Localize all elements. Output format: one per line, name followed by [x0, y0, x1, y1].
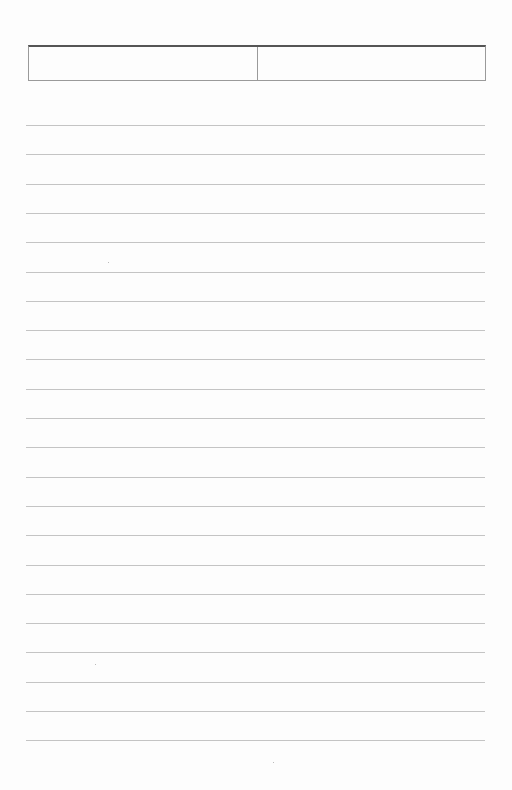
ruled-line [26, 359, 485, 360]
scan-speck [108, 262, 109, 263]
scan-speck [273, 762, 274, 763]
ruled-line [26, 652, 485, 653]
ruled-line [26, 682, 485, 683]
ruled-line [26, 418, 485, 419]
ruled-line [26, 330, 485, 331]
header-cell-right[interactable] [258, 47, 485, 80]
ruled-line [26, 740, 485, 741]
ruled-line [26, 389, 485, 390]
ruled-line [26, 623, 485, 624]
ruled-line [26, 301, 485, 302]
ruled-line [26, 711, 485, 712]
scan-speck [95, 664, 96, 665]
ruled-line [26, 506, 485, 507]
ruled-line [26, 154, 485, 155]
ruled-line [26, 213, 485, 214]
ruled-line [26, 565, 485, 566]
ruled-line [26, 125, 485, 126]
header-box [28, 45, 486, 81]
ruled-line [26, 594, 485, 595]
ruled-line [26, 477, 485, 478]
header-cell-left[interactable] [29, 47, 258, 80]
ruled-line [26, 535, 485, 536]
ruled-line [26, 447, 485, 448]
ruled-line [26, 272, 485, 273]
ruled-line [26, 184, 485, 185]
ruled-line [26, 242, 485, 243]
